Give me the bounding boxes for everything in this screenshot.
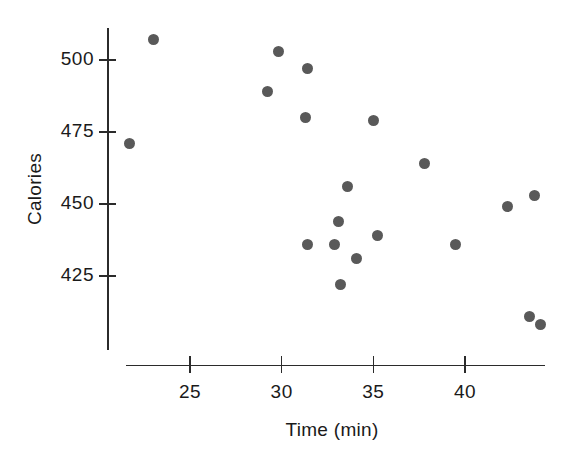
data-point xyxy=(450,239,461,250)
y-axis-line xyxy=(107,28,109,350)
data-point xyxy=(535,319,546,330)
x-tick-label-30: 30 xyxy=(252,381,312,403)
x-tick-40 xyxy=(464,356,466,373)
data-point xyxy=(368,115,379,126)
data-point xyxy=(502,201,513,212)
data-point xyxy=(529,190,540,201)
scatter-plot-figure: 425450475500 25303540 Calories Time (min… xyxy=(0,0,566,458)
y-tick-450 xyxy=(99,203,116,205)
y-tick-500 xyxy=(99,59,116,61)
data-point xyxy=(372,230,383,241)
y-axis-title: Calories xyxy=(24,129,46,249)
y-tick-425 xyxy=(99,275,116,277)
data-point xyxy=(335,279,346,290)
data-point xyxy=(302,63,313,74)
x-tick-25 xyxy=(189,356,191,373)
x-tick-label-35: 35 xyxy=(343,381,403,403)
data-point xyxy=(329,239,340,250)
data-point xyxy=(148,34,159,45)
x-tick-label-40: 40 xyxy=(435,381,495,403)
data-point xyxy=(342,181,353,192)
x-tick-30 xyxy=(281,356,283,373)
data-point xyxy=(419,158,430,169)
data-point xyxy=(524,311,535,322)
x-tick-label-25: 25 xyxy=(160,381,220,403)
data-point xyxy=(124,138,135,149)
data-point xyxy=(302,239,313,250)
data-point xyxy=(333,216,344,227)
data-point xyxy=(262,86,273,97)
data-point xyxy=(300,112,311,123)
x-tick-35 xyxy=(373,356,375,373)
data-point xyxy=(351,253,362,264)
data-point xyxy=(273,46,284,57)
x-axis-title: Time (min) xyxy=(232,419,432,441)
y-tick-label-500: 500 xyxy=(24,48,94,70)
y-tick-475 xyxy=(99,131,116,133)
y-tick-label-425: 425 xyxy=(24,264,94,286)
